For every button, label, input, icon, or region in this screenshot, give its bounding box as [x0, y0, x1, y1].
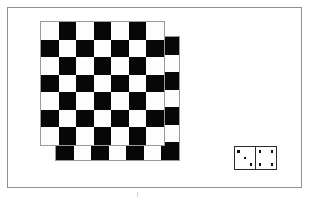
- checker-cell: [59, 57, 77, 75]
- domino-pip: [250, 163, 253, 166]
- checker-cell: [111, 57, 129, 75]
- checker-cell: [41, 22, 59, 40]
- checker-cell: [111, 92, 129, 110]
- checker-cell: [41, 40, 59, 58]
- checker-cell: [59, 22, 77, 40]
- checker-cell: [146, 22, 164, 40]
- domino-pip: [259, 163, 262, 166]
- domino: [234, 146, 277, 170]
- checker-cell: [129, 92, 147, 110]
- checker-cell: [111, 22, 129, 40]
- checker-cell: [76, 75, 94, 93]
- checker-cell: [129, 22, 147, 40]
- checker-cell: [129, 40, 147, 58]
- checker-cell: [129, 110, 147, 128]
- checker-cell: [94, 92, 112, 110]
- checker-cell: [41, 75, 59, 93]
- checker-cell: [94, 40, 112, 58]
- domino-pip: [244, 157, 247, 160]
- checker-cell: [146, 75, 164, 93]
- domino-pip: [237, 150, 240, 153]
- checker-cell: [59, 40, 77, 58]
- checker-cell: [146, 110, 164, 128]
- checker-cell: [111, 110, 129, 128]
- checker-cell: [59, 75, 77, 93]
- checker-cell: [129, 75, 147, 93]
- checker-cell: [59, 127, 77, 145]
- checker-cell: [129, 57, 147, 75]
- checker-cell: [146, 57, 164, 75]
- checker-cell: [146, 127, 164, 145]
- checker-cell: [41, 57, 59, 75]
- checker-cell: [129, 127, 147, 145]
- checker-cell: [41, 127, 59, 145]
- checker-cell: [111, 75, 129, 93]
- checker-cell: [94, 75, 112, 93]
- checker-cell: [76, 40, 94, 58]
- checker-cell: [111, 127, 129, 145]
- checkerboard-front: [40, 21, 165, 146]
- checker-cell: [76, 57, 94, 75]
- domino-left-half: [235, 147, 256, 169]
- domino-pip: [271, 163, 274, 166]
- checker-cell: [59, 110, 77, 128]
- checker-cell: [76, 110, 94, 128]
- checker-cell: [94, 110, 112, 128]
- checker-cell: [76, 22, 94, 40]
- checker-cell: [111, 40, 129, 58]
- checker-cell: [41, 110, 59, 128]
- checker-cell: [94, 22, 112, 40]
- domino-pip: [259, 150, 262, 153]
- checker-cell: [76, 127, 94, 145]
- checker-cell: [146, 92, 164, 110]
- bottom-tick-mark: [137, 192, 138, 197]
- illustration-scene: Checkerboards and domino illustration: [0, 0, 312, 203]
- checker-cell: [94, 127, 112, 145]
- checker-cell: [94, 57, 112, 75]
- checker-cell: [41, 92, 59, 110]
- domino-pip: [271, 150, 274, 153]
- checker-cell: [76, 92, 94, 110]
- domino-right-half: [256, 147, 276, 169]
- checker-cell: [59, 92, 77, 110]
- checker-cell: [146, 40, 164, 58]
